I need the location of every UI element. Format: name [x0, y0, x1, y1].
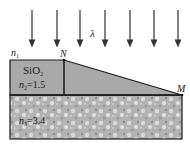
point-N-label: N: [59, 48, 68, 59]
wavelength-label: λ: [89, 27, 95, 39]
film-material-label: SiO2: [23, 64, 43, 77]
point-N-marker: [63, 59, 66, 62]
point-M-marker: [181, 94, 184, 97]
point-M-label: M: [176, 83, 186, 94]
arrow-icon: [78, 10, 83, 46]
wedge-film-diagram: λ n1 N M SiO2 n2=1.5 n3=3.4: [0, 0, 190, 149]
arrow-icon: [176, 10, 181, 46]
arrow-icon: [152, 10, 157, 46]
arrow-icon: [30, 10, 35, 46]
arrow-icon: [55, 10, 60, 46]
arrow-icon: [103, 10, 108, 46]
substrate-index-label: n3=3.4: [19, 115, 45, 127]
medium-index-label: n1: [11, 47, 19, 59]
incident-light-arrows: [30, 10, 181, 46]
film-index-label: n2=1.5: [19, 79, 45, 91]
arrow-icon: [128, 10, 133, 46]
